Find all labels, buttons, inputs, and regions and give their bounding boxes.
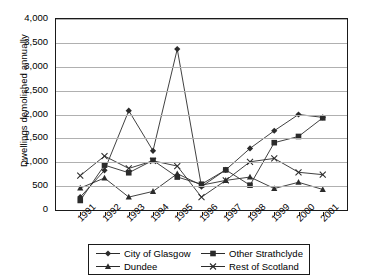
data-point-cross bbox=[102, 153, 108, 159]
legend-label: Rest of Scotland bbox=[229, 261, 299, 272]
legend-label: Dundee bbox=[124, 261, 157, 272]
plot-area bbox=[55, 18, 348, 211]
gridline bbox=[56, 115, 347, 116]
gridline bbox=[56, 186, 347, 187]
gridline bbox=[56, 43, 347, 44]
legend-item: City of Glasgow bbox=[95, 247, 200, 260]
y-axis-tick-label: 1,500 bbox=[14, 132, 48, 142]
y-axis-tick-label: 3,500 bbox=[14, 37, 48, 47]
data-point-square bbox=[271, 140, 277, 146]
chart-legend: City of GlasgowOther StrathclydeDundeeRe… bbox=[88, 244, 310, 275]
data-point-triangle bbox=[101, 175, 107, 181]
data-point-triangle bbox=[150, 188, 156, 194]
data-point-cross bbox=[77, 173, 83, 179]
y-axis-tick-label: 1,000 bbox=[14, 156, 48, 166]
data-point-square bbox=[223, 167, 229, 173]
data-point-triangle bbox=[295, 179, 301, 185]
legend-key-square bbox=[200, 248, 226, 259]
y-axis-tick-label: 2,500 bbox=[14, 85, 48, 95]
y-axis-tick-label: 2,000 bbox=[14, 109, 48, 119]
data-point-cross bbox=[199, 194, 205, 200]
data-point-diamond bbox=[150, 148, 156, 154]
data-point-triangle bbox=[174, 170, 180, 176]
data-point-diamond bbox=[105, 250, 111, 256]
gridline bbox=[56, 138, 347, 139]
gridline bbox=[56, 19, 347, 20]
data-point-diamond bbox=[126, 108, 132, 114]
data-point-square bbox=[210, 250, 216, 256]
data-point-diamond bbox=[174, 46, 180, 52]
gridline bbox=[56, 162, 347, 163]
gridline bbox=[56, 67, 347, 68]
data-point-square bbox=[320, 115, 326, 121]
y-axis-tick-label: 3,000 bbox=[14, 61, 48, 71]
legend-key-diamond bbox=[95, 248, 121, 259]
legend-key-triangle bbox=[95, 261, 121, 272]
y-axis-tick-label: 500 bbox=[14, 180, 48, 190]
legend-item: Rest of Scotland bbox=[200, 260, 305, 273]
legend-label: Other Strathclyde bbox=[229, 248, 303, 259]
chart-container: Dwellings demolished annually 4,0003,500… bbox=[0, 0, 367, 278]
y-axis-tick-label: 4,000 bbox=[14, 13, 48, 23]
data-point-diamond bbox=[271, 128, 277, 134]
data-point-square bbox=[77, 198, 83, 204]
series-line bbox=[80, 49, 323, 197]
x-axis-tick-labels: 1991199219931994199519961997199819992000… bbox=[0, 214, 367, 248]
gridline bbox=[56, 91, 347, 92]
legend-label: City of Glasgow bbox=[124, 248, 191, 259]
data-point-triangle bbox=[247, 174, 253, 180]
legend-item: Dundee bbox=[95, 260, 200, 273]
legend-item: Other Strathclyde bbox=[200, 247, 305, 260]
legend-key-cross bbox=[200, 261, 226, 272]
y-axis-tick-label: 0 bbox=[14, 204, 48, 214]
